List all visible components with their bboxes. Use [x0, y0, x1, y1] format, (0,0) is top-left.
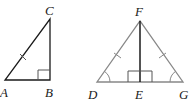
label-c: C	[45, 3, 54, 18]
label-e: E	[134, 87, 143, 102]
angle-arc-g	[170, 71, 176, 82]
angle-arc-d	[105, 71, 111, 82]
label-d: D	[87, 87, 98, 102]
label-b: B	[45, 85, 53, 100]
label-a: A	[0, 85, 8, 100]
label-g: G	[179, 87, 189, 102]
triangle-dfg	[97, 21, 183, 82]
geometry-figure: A B C D E F G	[0, 0, 192, 103]
right-angle-marker-b	[38, 70, 50, 80]
triangle-abc	[5, 19, 50, 80]
label-f: F	[134, 4, 144, 19]
